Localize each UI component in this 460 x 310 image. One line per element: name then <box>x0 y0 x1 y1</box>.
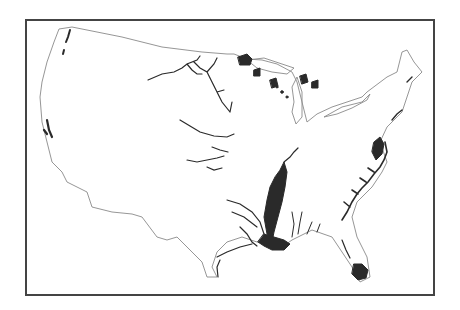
lake-erie-ontario <box>324 94 370 117</box>
mississippi-river-upper <box>284 148 298 162</box>
everglades-wetland <box>352 264 368 280</box>
kansas-river <box>187 147 228 170</box>
us-outline <box>40 27 422 282</box>
chesapeake-wetland <box>372 137 384 160</box>
florida-coast-wetland <box>342 240 350 258</box>
lake-michigan <box>292 77 302 124</box>
map-frame <box>25 19 435 296</box>
mississippi-delta-wetland <box>258 234 290 250</box>
missouri-river <box>148 56 232 112</box>
wisconsin-wetland <box>254 68 278 88</box>
mississippi-valley-wetland <box>264 162 287 242</box>
platte-river <box>180 120 234 137</box>
us-map <box>27 21 433 294</box>
minnesota-wetland <box>238 54 252 65</box>
puget-sound-wetland <box>63 30 70 54</box>
new-england-wetland <box>392 77 412 120</box>
gulf-rivers <box>217 200 264 277</box>
michigan-wetland <box>300 74 318 88</box>
